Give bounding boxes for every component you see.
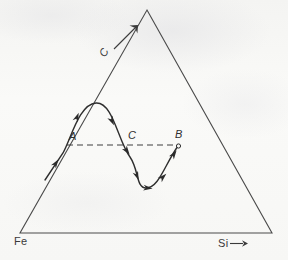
corner-label-si-group: Si [218, 238, 248, 249]
ternary-composition-triangle [20, 10, 272, 233]
point-label-b: B [175, 129, 182, 140]
ternary-diagram-figure: Fe Si C A C B [0, 0, 288, 260]
point-label-c: C [128, 130, 136, 141]
corner-label-fe: Fe [14, 236, 27, 247]
corner-label-si: Si [218, 238, 228, 249]
axis-label-c-group: C [99, 22, 143, 64]
axis-label-c: C [97, 46, 110, 58]
direction-arrow-4 [122, 146, 132, 157]
diagram-canvas [0, 0, 288, 260]
arrow-diagonal-up-right-icon [111, 22, 141, 52]
point-b-marker [176, 144, 180, 148]
point-label-a: A [69, 131, 76, 142]
arrow-right-icon [230, 239, 248, 248]
